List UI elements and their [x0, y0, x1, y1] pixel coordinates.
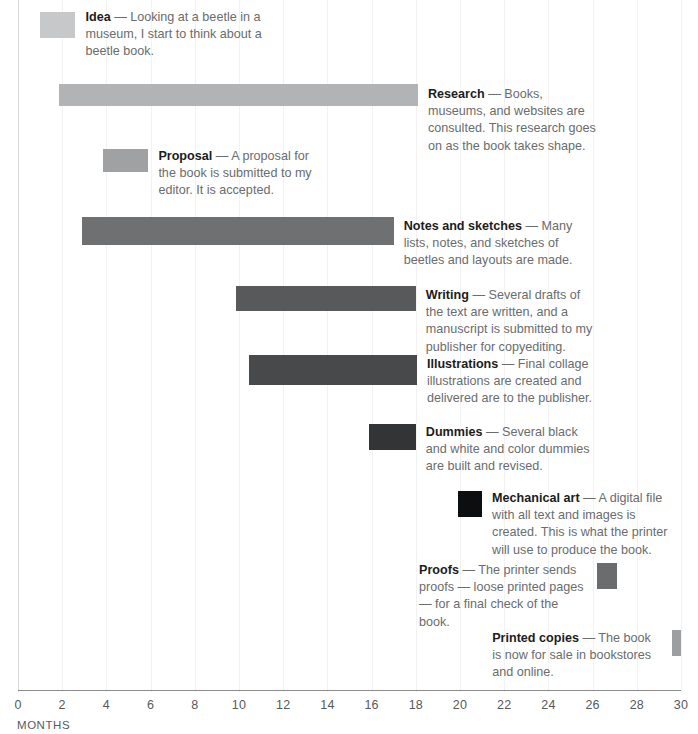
bar-dummies[interactable]	[369, 424, 415, 450]
task-caption-notes-and-sketches: Notes and sketches — Many lists, notes, …	[404, 218, 579, 270]
tick-label-26: 26	[585, 698, 599, 712]
tick-label-20: 20	[453, 698, 467, 712]
tick-label-0: 0	[14, 698, 21, 712]
task-caption-proposal: Proposal — A proposal for the book is su…	[158, 148, 318, 200]
task-dash-writing: —	[469, 288, 489, 302]
task-dash-printed-copies: —	[579, 631, 598, 645]
tick-label-6: 6	[147, 698, 154, 712]
task-label-printed-copies: Printed copies	[492, 631, 579, 645]
tick-label-14: 14	[320, 698, 334, 712]
task-caption-research: Research — Books, museums, and websites …	[428, 86, 600, 155]
bar-idea[interactable]	[40, 12, 75, 38]
task-caption-printed-copies: Printed copies — The book is now for sal…	[492, 630, 662, 682]
bar-notes-and-sketches[interactable]	[82, 217, 394, 245]
tick-label-10: 10	[232, 698, 246, 712]
tick-label-18: 18	[409, 698, 423, 712]
bar-illustrations[interactable]	[249, 355, 417, 385]
task-label-dummies: Dummies	[426, 425, 483, 439]
bar-proposal[interactable]	[103, 149, 148, 172]
x-axis-line	[18, 690, 681, 691]
task-label-mechanical-art: Mechanical art	[492, 491, 580, 505]
task-label-notes-and-sketches: Notes and sketches	[404, 219, 522, 233]
task-label-idea: Idea	[85, 10, 110, 24]
bar-printed-copies[interactable]	[672, 630, 681, 656]
tick-label-24: 24	[541, 698, 555, 712]
tick-label-12: 12	[276, 698, 290, 712]
task-dash-proofs: —	[459, 563, 478, 577]
bar-writing[interactable]	[236, 286, 416, 311]
tick-label-28: 28	[630, 698, 644, 712]
tick-label-2: 2	[59, 698, 66, 712]
gridline-month-28	[637, 0, 638, 692]
tick-label-16: 16	[364, 698, 378, 712]
x-axis-ticks: 024681012141618202224262830	[0, 698, 698, 716]
tick-label-22: 22	[497, 698, 511, 712]
tick-label-8: 8	[191, 698, 198, 712]
x-axis-title: MONTHS	[17, 719, 70, 731]
task-dash-dummies: —	[483, 425, 503, 439]
task-caption-writing: Writing — Several drafts of the text are…	[426, 287, 594, 356]
tick-label-4: 4	[103, 698, 110, 712]
task-label-research: Research	[428, 87, 485, 101]
plot-area: Idea — Looking at a beetle in a museum, …	[0, 0, 698, 692]
task-caption-idea: Idea — Looking at a beetle in a museum, …	[85, 9, 263, 61]
gridline-month-0	[18, 0, 19, 692]
task-dash-mechanical-art: —	[580, 491, 599, 505]
task-caption-mechanical-art: Mechanical art — A digital file with all…	[492, 490, 680, 559]
task-dash-proposal: —	[212, 149, 231, 163]
bar-mechanical-art[interactable]	[458, 491, 482, 517]
task-label-writing: Writing	[426, 288, 469, 302]
task-dash-illustrations: —	[498, 357, 518, 371]
task-label-proposal: Proposal	[158, 149, 212, 163]
bar-proofs[interactable]	[597, 563, 617, 589]
task-label-proofs: Proofs	[419, 563, 459, 577]
gridline-month-30	[681, 0, 682, 692]
bar-research[interactable]	[59, 84, 418, 106]
task-dash-idea: —	[111, 10, 131, 24]
task-caption-illustrations: Illustrations — Final collage illustrati…	[427, 356, 595, 408]
task-dash-notes-and-sketches: —	[522, 219, 542, 233]
timeline-chart: Idea — Looking at a beetle in a museum, …	[0, 0, 698, 734]
task-dash-research: —	[485, 87, 505, 101]
tick-label-30: 30	[674, 698, 688, 712]
task-caption-proofs: Proofs — The printer sends proofs — loos…	[419, 562, 587, 631]
task-caption-dummies: Dummies — Several black and white and co…	[426, 424, 596, 476]
task-label-illustrations: Illustrations	[427, 357, 498, 371]
